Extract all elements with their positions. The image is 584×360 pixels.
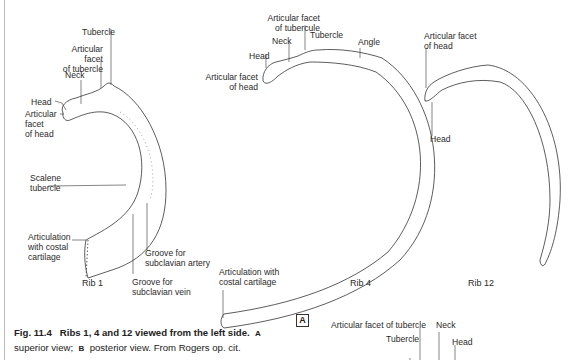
view-b-letter: B [79,344,85,353]
rib4-label-angle: Angle [358,37,380,47]
view-a-text: superior view; [14,342,73,353]
figure-caption: Fig. 11.4 Ribs 1, 4 and 12 viewed from t… [14,326,344,356]
rib4-label-articulation-costal-cartilage: Articulation with costal cartilage [219,267,279,287]
figure-number: Fig. 11.4 [14,327,52,338]
rib1-label-head: Head [31,97,52,107]
rib4-label-articular-facet-head: Articular facet of head [196,72,258,92]
rib4-title: Rib 4 [350,278,371,288]
rib-12-drawing [425,65,560,266]
rib1-label-articular-facet-head: Articular facet of head [25,109,57,139]
panelb-label-tubercle: Tubercle [386,334,419,344]
rib12-label-head: Head [430,134,451,144]
rib1-label-scalene-tubercle: Scalene tubercle [30,173,61,193]
rib12-title: Rib 12 [468,278,494,288]
figure-title: Ribs 1, 4 and 12 viewed from the left si… [60,327,250,338]
panelb-label-neck: Neck [436,320,456,330]
view-b-text: posterior view. From Rogers op. cit. [90,342,241,353]
view-a-letter: A [255,329,261,338]
rib1-label-neck: Neck [65,70,85,80]
rib4-label-head: Head [249,51,270,61]
rib1-label-groove-subclavian-vein: Groove for subclavian vein [132,277,191,297]
rib12-label-articular-facet-head: Articular facet of head [424,31,477,51]
rib1-label-articulation-costal-cartilage: Articulation with costal cartilage [28,232,71,262]
panelb-label-articular-facet-tubercle: Articular facet of tubercle [331,320,426,330]
rib4-label-neck: Neck [272,36,292,46]
panelb-label-head: Head [452,337,473,347]
rib1-label-tubercle: Tubercle [82,27,115,37]
rib1-title: Rib 1 [82,278,103,288]
rib4-label-tubercle: Tubercle [310,30,343,40]
rib1-label-groove-subclavian-artery: Groove for subclavian artery [145,248,210,268]
